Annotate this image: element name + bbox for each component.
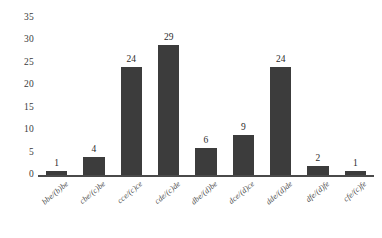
bar-value-label: 1	[54, 158, 59, 168]
x-axis-tick-text: dce/(d)ce	[228, 180, 257, 206]
bar-rect	[158, 45, 180, 175]
bar: 2	[307, 18, 329, 175]
x-axis-tick-text: cfe/(c)fe	[343, 180, 369, 204]
bar: 6	[195, 18, 217, 175]
bar: 29	[158, 18, 180, 175]
y-axis: 05101520253035	[0, 18, 34, 176]
y-axis-tick-label: 30	[0, 35, 34, 45]
bar: 1	[46, 18, 68, 175]
bar-rect	[46, 171, 68, 175]
y-axis-tick-label: 10	[0, 125, 34, 135]
x-axis-tick-text: dfe/(d)fe	[305, 180, 332, 204]
bar-value-label: 1	[353, 158, 358, 168]
x-axis-tick-text: bbe/(b)be	[40, 180, 69, 206]
bar-rect	[233, 135, 255, 175]
x-axis-tick-label: bbe/(b)be	[0, 180, 70, 238]
bar-rect	[307, 166, 329, 175]
bar-rect	[83, 157, 105, 175]
bar-value-label: 24	[276, 54, 286, 64]
bar: 4	[83, 18, 105, 175]
y-axis-tick-label: 0	[0, 170, 34, 180]
x-axis-tick-text: cde/(c)de	[153, 180, 182, 206]
bar: 24	[270, 18, 292, 175]
bar-value-label: 6	[204, 135, 209, 145]
y-axis-tick-label: 35	[0, 13, 34, 23]
bar-rect	[195, 148, 217, 175]
x-axis-tick-text: cce/(c)ce	[117, 180, 145, 205]
bar: 1	[345, 18, 367, 175]
bar-chart: 05101520253035 142429692421 bbe/(b)becbe…	[0, 0, 382, 238]
y-axis-tick-label: 5	[0, 148, 34, 158]
bar-rect	[121, 67, 143, 175]
y-axis-tick-label: 15	[0, 103, 34, 113]
x-axis-tick-text: dde/(d)de	[264, 180, 293, 206]
bar: 9	[233, 18, 255, 175]
bar-rect	[270, 67, 292, 175]
x-axis: bbe/(b)becbe/(c)becce/(c)cecde/(c)dedbe/…	[38, 177, 374, 237]
y-axis-tick-label: 25	[0, 58, 34, 68]
bar-value-label: 9	[241, 122, 246, 132]
bar-value-label: 2	[316, 153, 321, 163]
bar-value-label: 4	[92, 144, 97, 154]
x-axis-tick-text: dbe/(d)be	[190, 180, 219, 206]
bar-value-label: 29	[164, 32, 174, 42]
x-axis-tick-text: cbe/(c)be	[79, 180, 108, 206]
bar-rect	[345, 171, 367, 175]
bar-value-label: 24	[127, 54, 137, 64]
bar-series: 142429692421	[38, 18, 374, 175]
y-axis-tick-label: 20	[0, 80, 34, 90]
bar: 24	[121, 18, 143, 175]
